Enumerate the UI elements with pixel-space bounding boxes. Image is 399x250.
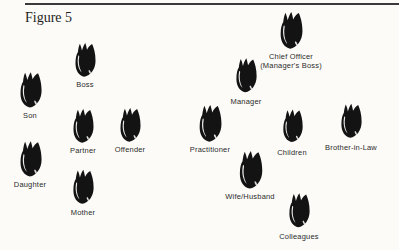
figure-item-boss: Boss — [40, 43, 130, 89]
person-blob-icon — [237, 151, 264, 189]
person-blob-icon — [197, 105, 223, 142]
person-blob-icon — [73, 43, 97, 77]
figure-item-mother: Mother — [38, 169, 128, 217]
figure-item-colleagues: Colleagues — [254, 192, 344, 241]
figure-item-practitioner: Practitioner — [165, 105, 255, 154]
person-blob-icon — [18, 72, 43, 108]
figure-page: Figure 5 Son Boss Partner Offender Daugh… — [0, 0, 399, 250]
person-blob-icon — [278, 12, 304, 49]
item-label: Offender — [115, 145, 146, 154]
item-label: Boss — [76, 80, 93, 89]
person-blob-icon — [281, 107, 304, 145]
item-label: Colleagues — [279, 232, 319, 241]
figure-item-chief-officer: Chief Officer (Manager's Boss) — [246, 12, 336, 70]
person-blob-icon — [287, 192, 311, 229]
item-label: Brother-in-Law — [325, 143, 377, 152]
item-label: Mother — [71, 208, 96, 217]
top-rule — [25, 3, 399, 5]
item-label: Son — [23, 111, 37, 120]
person-blob-icon — [71, 169, 95, 205]
figure-item-offender: Offender — [85, 108, 175, 154]
figure-item-brother-in-law: Brother-in-Law — [306, 102, 396, 152]
person-blob-icon — [339, 102, 363, 140]
item-label: Chief Officer (Manager's Boss) — [260, 52, 322, 70]
figure-title: Figure 5 — [25, 10, 72, 26]
person-blob-icon — [118, 108, 142, 142]
